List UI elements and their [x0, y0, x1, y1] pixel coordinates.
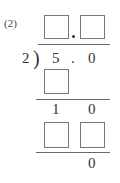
step2-product-box-2[interactable] — [80, 122, 105, 148]
final-remainder: 0 — [88, 156, 96, 171]
quotient-tenths-box[interactable] — [80, 15, 105, 39]
dividend-decimal-point: . — [71, 51, 75, 66]
dividend-tenths-digit: 0 — [88, 51, 96, 66]
step1-product-box[interactable] — [44, 69, 69, 94]
step1-remainder-tenths: 0 — [88, 102, 96, 117]
divisor: 2 — [22, 51, 30, 66]
step1-remainder-ones: 1 — [52, 102, 60, 117]
step1-subtraction-line — [36, 99, 110, 100]
quotient-ones-box[interactable] — [44, 15, 69, 39]
division-bar — [38, 44, 110, 45]
problem-number: (2) — [4, 17, 17, 29]
division-bracket: ) — [33, 48, 40, 68]
dividend-ones-digit: 5 — [52, 51, 60, 66]
quotient-decimal-point — [72, 35, 75, 38]
step2-subtraction-line — [36, 152, 110, 153]
step2-product-box-1[interactable] — [44, 122, 69, 148]
